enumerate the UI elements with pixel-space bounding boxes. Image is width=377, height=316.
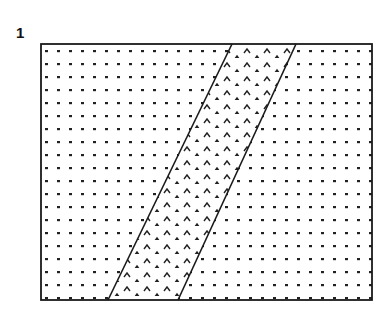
geologic-cross-section-diagram [0,0,377,316]
